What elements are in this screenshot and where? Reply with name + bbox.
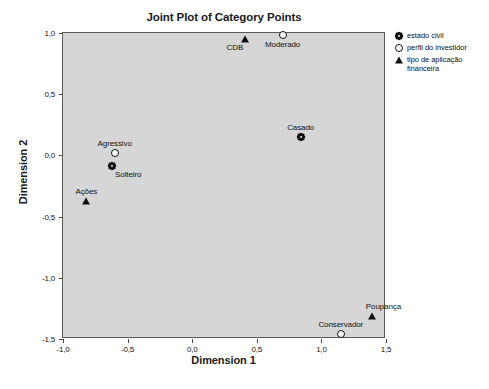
y-axis-tick: [59, 155, 63, 156]
x-axis-tick: [192, 339, 193, 343]
open-circle-icon: [394, 43, 405, 53]
star-icon: [296, 133, 305, 142]
open-circle-icon: [337, 330, 345, 338]
filled-triangle-icon: [368, 312, 376, 319]
x-axis-title: Dimension 1: [62, 354, 385, 366]
y-axis-tick-label: -1,0: [42, 273, 55, 282]
x-axis-tick-label: 0,5: [252, 345, 263, 354]
legend-item-label: perfil do investidor: [407, 43, 467, 53]
y-axis-tick-label: 0,0: [44, 151, 55, 160]
legend-item: tipo de aplicaçãofinanceira: [394, 55, 487, 73]
x-axis-tick: [63, 339, 64, 343]
data-point-label: Ações: [75, 187, 97, 196]
data-point-label: Casado: [287, 123, 314, 132]
x-axis-tick-label: 1,5: [381, 345, 392, 354]
y-axis-tick: [59, 94, 63, 95]
chart-legend: estado civilperfil do investidortipo de …: [394, 31, 487, 74]
data-point-label: CDB: [227, 43, 244, 52]
data-point-label: Solteiro: [115, 170, 141, 179]
star-icon: [394, 31, 405, 41]
filled-triangle-icon: [241, 36, 249, 43]
y-axis-tick: [59, 339, 63, 340]
x-axis-tick-label: -0,5: [121, 345, 134, 354]
data-point-label: Conservador: [318, 320, 363, 329]
chart-title: Joint Plot of Category Points: [62, 11, 386, 23]
y-axis-tick-label: 0,5: [44, 90, 55, 99]
y-axis-tick: [59, 217, 63, 218]
x-axis-tick-label: 0,0: [187, 345, 198, 354]
x-axis-tick: [128, 339, 129, 343]
legend-item: estado civil: [394, 31, 487, 42]
y-axis-title: Dimension 2: [17, 102, 29, 242]
filled-triangle-icon: [394, 55, 405, 65]
open-circle-icon: [111, 149, 119, 157]
legend-item: perfil do investidor: [394, 43, 487, 54]
plot-points-layer: CasadoSolteiroModeradoAgressivoConservad…: [63, 33, 384, 337]
x-axis-tick: [386, 339, 387, 343]
data-point-label: Agressivo: [98, 139, 132, 148]
open-circle-icon: [279, 31, 287, 39]
plot-area: CasadoSolteiroModeradoAgressivoConservad…: [62, 32, 385, 338]
data-point-label: Moderado: [265, 40, 300, 49]
x-axis-tick: [321, 339, 322, 343]
legend-item-label: estado civil: [407, 31, 444, 41]
legend-item-label: tipo de aplicaçãofinanceira: [407, 55, 462, 73]
x-axis-tick-label: -1,0: [57, 345, 70, 354]
y-axis-tick: [59, 278, 63, 279]
y-axis-tick-label: -0,5: [42, 212, 55, 221]
y-axis-tick: [59, 33, 63, 34]
y-axis-tick-label: -1,5: [42, 335, 55, 344]
y-axis-tick-label: 1,0: [44, 29, 55, 38]
data-point-label: Poupança: [366, 302, 401, 311]
filled-triangle-icon: [82, 197, 90, 204]
x-axis-tick-label: 1,0: [316, 345, 327, 354]
chart-figure: Joint Plot of Category Points CasadoSolt…: [0, 0, 489, 389]
x-axis-tick: [257, 339, 258, 343]
